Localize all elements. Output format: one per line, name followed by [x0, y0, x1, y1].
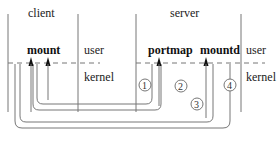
nfs-mount-diagram: client server mount portmap mountd user …: [0, 0, 280, 141]
arrowheads: [29, 57, 209, 66]
mount-process: mount: [27, 43, 60, 57]
server-kernel-label: kernel: [246, 70, 277, 84]
client-label: client: [28, 6, 55, 20]
server-user-label: user: [246, 43, 266, 57]
message-paths: [15, 64, 230, 128]
step-4-number: 4: [227, 80, 232, 91]
path-step-4: [15, 64, 230, 128]
client-user-label: user: [84, 43, 104, 57]
step-1-number: 1: [142, 80, 147, 91]
portmap-process: portmap: [148, 43, 193, 57]
server-label: server: [170, 6, 199, 20]
mountd-process: mountd: [200, 43, 240, 57]
client-kernel-label: kernel: [84, 70, 115, 84]
path-step-3: [20, 64, 213, 122]
step-3-number: 3: [194, 99, 199, 110]
step-2-number: 2: [178, 81, 183, 92]
